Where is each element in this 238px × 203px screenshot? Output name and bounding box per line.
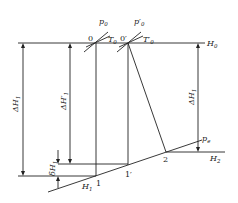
- label-deltah1: δH1: [48, 161, 58, 176]
- label-point-1-prime: 1′: [125, 170, 132, 179]
- label-dh1-right: ΔH1: [187, 89, 197, 106]
- label-dh1: ΔH1: [11, 96, 21, 113]
- label-h1: H1: [81, 182, 92, 192]
- process-0prime-2: [128, 43, 166, 152]
- label-point-2: 2: [163, 155, 168, 164]
- arrow-down-icon: [68, 159, 72, 164]
- label-t0: T0: [108, 35, 117, 45]
- arrow-down-icon: [196, 147, 200, 152]
- label-point-1: 1: [96, 179, 101, 188]
- diagram-canvas: p0 0 T0 p′0 0′ T′0 H0 ΔH1 ΔH′1 ΔH1 δH1 H…: [0, 0, 238, 203]
- arrow-down-icon: [21, 171, 25, 176]
- label-point-0-prime: 0′: [120, 34, 127, 43]
- arrow-up-icon: [68, 43, 72, 48]
- arrow-up-icon: [21, 43, 25, 48]
- label-t0-prime: T′0: [143, 35, 154, 45]
- label-h0: H0: [206, 39, 218, 49]
- label-dh1-prime: ΔH′1: [59, 92, 69, 111]
- arrow-up-icon: [196, 43, 200, 48]
- label-h2: H2: [209, 154, 221, 164]
- label-pe: pe: [202, 134, 211, 144]
- label-p0-prime: p′0: [134, 17, 145, 27]
- label-point-0: 0: [88, 34, 93, 43]
- label-p0: p0: [99, 17, 108, 27]
- pe-isobar: [48, 140, 202, 192]
